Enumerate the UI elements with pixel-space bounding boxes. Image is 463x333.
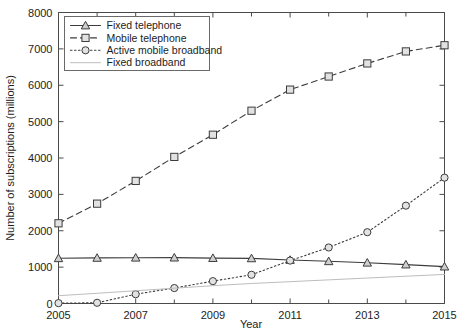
legend-label: Fixed telephone — [107, 19, 182, 31]
data-point-marker — [171, 153, 178, 160]
chart-figure: 010002000300040005000600070008000 200520… — [0, 0, 463, 333]
y-tick-label: 5000 — [28, 116, 52, 128]
data-point-marker — [402, 202, 409, 209]
x-tick-label: 2009 — [201, 309, 225, 321]
y-tick-label: 1000 — [28, 261, 52, 273]
y-axis-tick-labels: 010002000300040005000600070008000 — [28, 7, 52, 310]
data-point-marker — [132, 177, 139, 184]
legend-label: Fixed broadband — [107, 56, 186, 68]
data-point-marker — [94, 299, 101, 306]
x-tick-label: 2005 — [46, 309, 70, 321]
y-tick-label: 7000 — [28, 43, 52, 55]
legend: Fixed telephoneMobile telephoneActive mo… — [65, 17, 223, 71]
data-point-marker — [287, 86, 294, 93]
data-point-marker — [94, 200, 101, 207]
y-tick-label: 8000 — [28, 7, 52, 19]
y-tick-label: 4000 — [28, 152, 52, 164]
data-point-marker — [82, 47, 89, 54]
line-chart: 010002000300040005000600070008000 200520… — [0, 0, 463, 333]
data-point-marker — [287, 257, 294, 264]
data-point-marker — [402, 48, 409, 55]
data-point-marker — [248, 271, 255, 278]
data-point-marker — [248, 107, 255, 114]
data-point-marker — [364, 229, 371, 236]
data-point-marker — [132, 291, 139, 298]
x-tick-label: 2013 — [355, 309, 379, 321]
data-point-marker — [325, 73, 332, 80]
legend-label: Mobile telephone — [107, 32, 187, 44]
series-line — [59, 178, 445, 304]
x-tick-label: 2011 — [278, 309, 302, 321]
data-point-marker — [55, 220, 62, 227]
data-point-marker — [82, 34, 89, 41]
data-point-marker — [364, 60, 371, 67]
data-point-marker — [55, 300, 62, 307]
y-axis-title: Number of subscriptions (millions) — [4, 75, 16, 241]
legend-label: Active mobile broadband — [107, 44, 223, 56]
y-tick-label: 6000 — [28, 79, 52, 91]
series-line — [59, 45, 445, 223]
x-tick-label: 2015 — [432, 309, 456, 321]
data-point-marker — [441, 174, 448, 181]
data-point-marker — [209, 278, 216, 285]
x-tick-label: 2007 — [123, 309, 147, 321]
x-axis-title: Year — [240, 318, 263, 330]
series-fixed-telephone — [54, 253, 448, 270]
y-tick-label: 3000 — [28, 188, 52, 200]
series-layer — [54, 42, 448, 307]
data-point-marker — [325, 244, 332, 251]
data-point-marker — [209, 131, 216, 138]
y-tick-label: 2000 — [28, 225, 52, 237]
data-point-marker — [441, 42, 448, 49]
